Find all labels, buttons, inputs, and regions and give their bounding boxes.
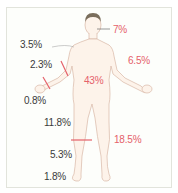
- label-thigh: 11.8%: [44, 118, 71, 128]
- label-upper-arm: 3.5%: [20, 40, 42, 50]
- label-foot: 1.8%: [44, 172, 66, 182]
- right-hand: [142, 85, 152, 93]
- label-trunk: 43%: [84, 76, 103, 86]
- label-head: 7%: [113, 25, 127, 35]
- label-arm-total: 6.5%: [128, 56, 150, 66]
- label-leg-total: 18.5%: [114, 135, 141, 145]
- label-hand: 0.8%: [24, 96, 46, 106]
- upper-arm-leader-line: [52, 46, 74, 48]
- left-hand: [35, 85, 45, 93]
- label-forearm: 2.3%: [30, 60, 52, 70]
- label-lower-leg: 5.3%: [50, 150, 72, 160]
